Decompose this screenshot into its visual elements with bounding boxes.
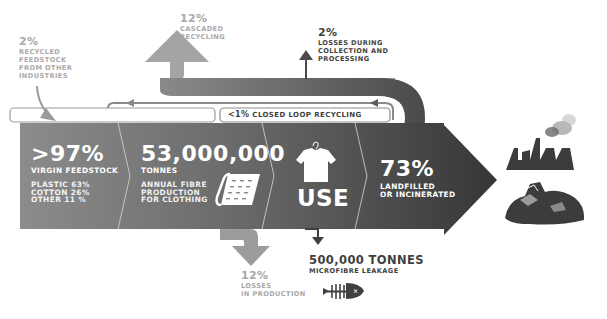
production-line: FOR CLOTHING (141, 196, 285, 204)
svg-text:×: × (353, 287, 358, 294)
collection-percent: 2% (318, 27, 388, 39)
recycled-line: RECYCLED (19, 48, 72, 56)
cascaded-line: CASCADED (180, 25, 225, 33)
production-block: 53,000,000 TONNES ANNUAL FIBRE PRODUCTIO… (141, 142, 285, 204)
production-losses-arrow (220, 229, 270, 266)
recycled-feedstock-label: 2% RECYCLED FEEDSTOCK FROM OTHER INDUSTR… (19, 36, 72, 80)
recycled-line: FEEDSTOCK (19, 56, 72, 64)
microfibre-value: 500,000 TONNES (309, 254, 424, 266)
production-losses-label: 12% LOSSES IN PRODUCTION (241, 270, 306, 298)
cascaded-label: 12% CASCADED RECYCLING (180, 13, 225, 41)
breakdown-other: OTHER 11 % (31, 196, 118, 204)
collection-losses-arrow (299, 50, 313, 79)
microfibre-text: MICROFIBRE LEAKAGE (309, 267, 424, 275)
cascaded-percent: 12% (180, 13, 225, 25)
cascaded-line: RECYCLING (180, 33, 225, 41)
recycled-line: FROM OTHER (19, 64, 72, 72)
virgin-block: >97% VIRGIN FEEDSTOCK PLASTIC 63% COTTON… (31, 142, 118, 204)
virgin-percent: >97% (31, 142, 118, 165)
landfill-block: 73% LANDFILLED OR INCINERATED (380, 157, 456, 199)
factory-smoke-icon (506, 114, 576, 170)
collection-line: PROCESSING (318, 55, 388, 63)
landfill-heap-icon (505, 182, 584, 225)
collection-losses-label: 2% LOSSES DURING COLLECTION AND PROCESSI… (318, 27, 388, 63)
recycled-percent: 2% (19, 36, 72, 48)
closed-loop-percent: <1% (228, 110, 250, 119)
closed-loop-text: CLOSED LOOP RECYCLING (252, 111, 361, 119)
use-label: USE (297, 186, 349, 210)
landfill-percent: 73% (380, 157, 456, 180)
fish-skeleton-icon: × (323, 283, 364, 299)
collection-line: LOSSES DURING (318, 39, 388, 47)
production-value: 53,000,000 (141, 142, 285, 165)
collection-line: COLLECTION AND (318, 47, 388, 55)
closed-loop-label: <1% CLOSED LOOP RECYCLING (228, 111, 362, 119)
recycled-line: INDUSTRIES (19, 72, 72, 80)
virgin-label: VIRGIN FEEDSTOCK (31, 167, 118, 175)
microfibre-arrow (305, 229, 324, 245)
production-losses-line: LOSSES (241, 282, 306, 290)
microfibre-label: 500,000 TONNES MICROFIBRE LEAKAGE (309, 254, 424, 275)
landfill-line: OR INCINERATED (380, 191, 456, 199)
production-losses-line: IN PRODUCTION (241, 290, 306, 298)
production-unit: TONNES (141, 167, 285, 175)
production-losses-percent: 12% (241, 270, 306, 282)
